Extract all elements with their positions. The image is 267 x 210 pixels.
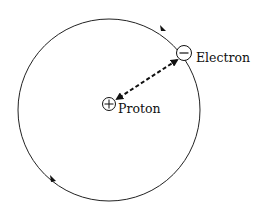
electron-label: Electron [196, 50, 250, 65]
coulomb-force-arrow [117, 60, 177, 99]
atom-diagram: Proton Electron [0, 0, 267, 210]
electron: Electron [177, 46, 251, 66]
proton: Proton [103, 98, 161, 117]
proton-label: Proton [118, 101, 161, 116]
orbit-arrow-bottom-icon [50, 175, 56, 182]
orbit-arrow-top-icon [160, 25, 166, 31]
